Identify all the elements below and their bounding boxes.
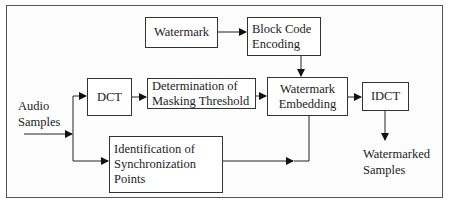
audio-samples-line1: Audio bbox=[18, 98, 60, 114]
watermark-embedding-label-line2: Embedding bbox=[279, 97, 337, 112]
watermark-embedding-block: Watermark Embedding bbox=[267, 77, 348, 116]
audio-samples-line2: Samples bbox=[18, 114, 60, 130]
sync-points-label-line2: Synchronization bbox=[114, 157, 196, 172]
masking-threshold-label-line1: Determination of bbox=[152, 79, 249, 94]
block-code-encoding-label-line1: Block Code bbox=[252, 22, 311, 37]
sync-points-label-line3: Points bbox=[114, 172, 196, 187]
idct-block: IDCT bbox=[362, 82, 409, 111]
idct-block-label: IDCT bbox=[371, 89, 400, 104]
watermark-block: Watermark bbox=[145, 17, 218, 48]
sync-points-label-line1: Identification of bbox=[114, 142, 196, 157]
watermarked-samples-line1: Watermarked bbox=[363, 146, 430, 162]
block-code-encoding-label-line2: Encoding bbox=[252, 37, 311, 52]
dct-block: DCT bbox=[87, 78, 132, 116]
block-code-encoding-block: Block Code Encoding bbox=[247, 17, 321, 56]
audio-samples-label: Audio Samples bbox=[18, 98, 60, 130]
dct-block-label: DCT bbox=[97, 90, 122, 105]
masking-threshold-label-line2: Masking Threshold bbox=[152, 94, 249, 109]
watermarked-samples-label: Watermarked Samples bbox=[363, 146, 430, 178]
sync-points-block: Identification of Synchronization Points bbox=[109, 136, 223, 193]
watermark-embedding-label-line1: Watermark bbox=[279, 82, 337, 97]
watermark-block-label: Watermark bbox=[154, 25, 209, 40]
watermarked-samples-line2: Samples bbox=[363, 162, 430, 178]
masking-threshold-block: Determination of Masking Threshold bbox=[147, 78, 256, 109]
